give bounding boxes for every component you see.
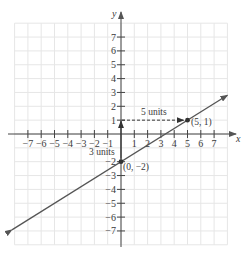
y-tick-label: −7 [105,225,116,236]
axes [8,12,236,247]
x-tick-label: 3 [158,138,163,149]
x-tick-label: −3 [76,138,87,149]
x-tick-label: 1 [132,138,137,149]
x-tick-label: 7 [212,138,217,149]
rise-label: 3 units [89,147,115,157]
y-tick-label: 1 [111,115,116,126]
x-tick-label: −4 [62,138,73,149]
x-tick-label: 4 [172,138,177,149]
y-tick-label: −5 [105,198,116,209]
y-tick-label: 3 [111,87,116,98]
x-axis-label: x [235,133,241,144]
y-tick-label: 2 [111,101,116,112]
x-tick-label: −6 [36,138,47,149]
y-axis-label: y [111,8,117,19]
y-tick-label: 6 [111,45,116,56]
y-tick-label: 7 [111,32,116,43]
point-label-5-1: (5, 1) [191,117,212,128]
run-label: 5 units [141,107,167,117]
y-tick-label: −3 [105,170,116,181]
y-tick-label: −6 [105,212,116,223]
point-label-0-neg2: (0, −2) [123,162,149,173]
x-tick-label: −7 [23,138,34,149]
x-tick-label: −5 [49,138,60,149]
coordinate-graph: −7−6−5−4−3−2−112345677654321−2−3−4−5−6−7… [0,0,249,256]
data-point [185,118,190,123]
y-tick-label: 5 [111,59,116,70]
y-tick-label: −4 [105,184,116,195]
y-tick-label: 4 [111,73,116,84]
x-tick-label: 6 [198,138,203,149]
x-tick-label: 5 [185,138,190,149]
